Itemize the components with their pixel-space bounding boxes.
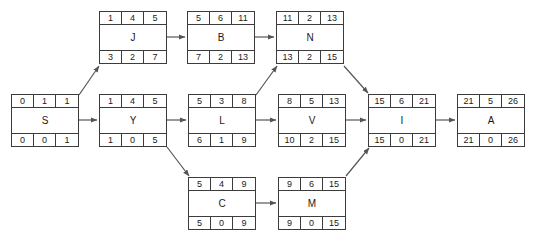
node-bottom-cell-0: 13	[277, 51, 299, 63]
node-label: N	[277, 25, 343, 50]
node-top-row: 538	[189, 95, 255, 108]
node-bottom-cell-2: 15	[323, 217, 345, 229]
edge-Y-C	[167, 147, 189, 176]
node-bottom-cell-1: 0	[34, 134, 56, 146]
node-top-cell-2: 13	[321, 12, 343, 24]
node-bottom-cell-1: 0	[122, 134, 144, 146]
node-bottom-row: 327	[100, 50, 166, 63]
node-top-cell-0: 9	[279, 178, 301, 190]
node-label: V	[279, 108, 345, 133]
node-bottom-cell-0: 6	[189, 134, 211, 146]
node-bottom-row: 105	[100, 133, 166, 146]
node-bottom-row: 7213	[188, 50, 254, 63]
node-bottom-cell-2: 5	[144, 134, 166, 146]
node-label: S	[12, 108, 78, 133]
node-bottom-cell-2: 7	[144, 51, 166, 63]
node-bottom-cell-0: 7	[188, 51, 210, 63]
node-bottom-cell-1: 0	[301, 217, 323, 229]
node-top-row: 145	[100, 95, 166, 108]
node-bottom-row: 15021	[369, 133, 435, 146]
node-bottom-cell-2: 15	[321, 51, 343, 63]
node-top-row: 11213	[277, 12, 343, 25]
node-top-cell-0: 8	[279, 95, 301, 107]
node-bottom-row: 21026	[458, 133, 524, 146]
node-top-cell-1: 6	[210, 12, 232, 24]
node-label: I	[369, 108, 435, 133]
node-top-cell-1: 6	[391, 95, 413, 107]
node-bottom-cell-0: 1	[100, 134, 122, 146]
activity-node-m[interactable]: 9615M9015	[278, 177, 346, 230]
node-top-cell-2: 8	[233, 95, 255, 107]
node-bottom-row: 13215	[277, 50, 343, 63]
node-top-cell-0: 0	[12, 95, 34, 107]
node-top-cell-2: 21	[413, 95, 435, 107]
node-bottom-cell-2: 9	[233, 134, 255, 146]
node-top-row: 549	[189, 178, 255, 191]
node-bottom-cell-0: 0	[12, 134, 34, 146]
node-bottom-row: 10215	[279, 133, 345, 146]
node-top-cell-0: 15	[369, 95, 391, 107]
node-top-cell-2: 9	[233, 178, 255, 190]
node-top-cell-2: 13	[323, 95, 345, 107]
activity-node-j[interactable]: 145J327	[99, 11, 167, 64]
node-top-cell-0: 11	[277, 12, 299, 24]
node-bottom-cell-2: 13	[232, 51, 254, 63]
node-top-row: 145	[100, 12, 166, 25]
node-bottom-cell-2: 15	[323, 134, 345, 146]
node-bottom-cell-1: 0	[391, 134, 413, 146]
node-top-cell-1: 4	[122, 12, 144, 24]
node-bottom-cell-2: 21	[413, 134, 435, 146]
node-label: Y	[100, 108, 166, 133]
activity-node-l[interactable]: 538L619	[188, 94, 256, 147]
activity-node-n[interactable]: 11213N13215	[276, 11, 344, 64]
node-label: C	[189, 191, 255, 216]
edge-layer	[0, 0, 535, 244]
node-top-cell-1: 5	[301, 95, 323, 107]
node-bottom-cell-1: 1	[211, 134, 233, 146]
node-top-cell-2: 15	[323, 178, 345, 190]
network-diagram-canvas: 145J3275611B721311213N13215011S001145Y10…	[0, 0, 535, 244]
node-bottom-cell-2: 9	[233, 217, 255, 229]
node-top-cell-0: 21	[458, 95, 480, 107]
node-top-cell-1: 3	[211, 95, 233, 107]
node-bottom-cell-0: 5	[189, 217, 211, 229]
node-top-cell-2: 5	[144, 95, 166, 107]
node-bottom-cell-0: 9	[279, 217, 301, 229]
edge-M-I	[346, 148, 369, 176]
node-top-row: 21526	[458, 95, 524, 108]
node-bottom-cell-1: 2	[122, 51, 144, 63]
node-top-cell-2: 11	[232, 12, 254, 24]
node-bottom-row: 509	[189, 216, 255, 229]
node-top-cell-1: 6	[301, 178, 323, 190]
edge-S-J	[79, 66, 99, 95]
node-bottom-cell-0: 21	[458, 134, 480, 146]
activity-node-c[interactable]: 549C509	[188, 177, 256, 230]
activity-node-s[interactable]: 011S001	[11, 94, 79, 147]
node-bottom-cell-0: 15	[369, 134, 391, 146]
node-bottom-cell-0: 10	[279, 134, 301, 146]
edge-L-N	[256, 66, 277, 95]
node-top-cell-1: 1	[34, 95, 56, 107]
activity-node-a[interactable]: 21526A21026	[457, 94, 525, 147]
node-top-cell-2: 26	[502, 95, 524, 107]
node-bottom-row: 619	[189, 133, 255, 146]
activity-node-b[interactable]: 5611B7213	[187, 11, 255, 64]
node-top-cell-0: 5	[189, 178, 211, 190]
activity-node-i[interactable]: 15621I15021	[368, 94, 436, 147]
node-bottom-row: 001	[12, 133, 78, 146]
node-top-cell-1: 5	[480, 95, 502, 107]
node-top-cell-1: 4	[122, 95, 144, 107]
node-label: A	[458, 108, 524, 133]
activity-node-v[interactable]: 8513V10215	[278, 94, 346, 147]
node-label: B	[188, 25, 254, 50]
node-top-row: 8513	[279, 95, 345, 108]
node-top-cell-2: 1	[56, 95, 78, 107]
node-label: M	[279, 191, 345, 216]
node-label: J	[100, 25, 166, 50]
node-bottom-cell-2: 26	[502, 134, 524, 146]
edge-N-I	[344, 66, 368, 93]
node-label: L	[189, 108, 255, 133]
node-top-cell-1: 4	[211, 178, 233, 190]
activity-node-y[interactable]: 145Y105	[99, 94, 167, 147]
node-bottom-cell-1: 0	[211, 217, 233, 229]
